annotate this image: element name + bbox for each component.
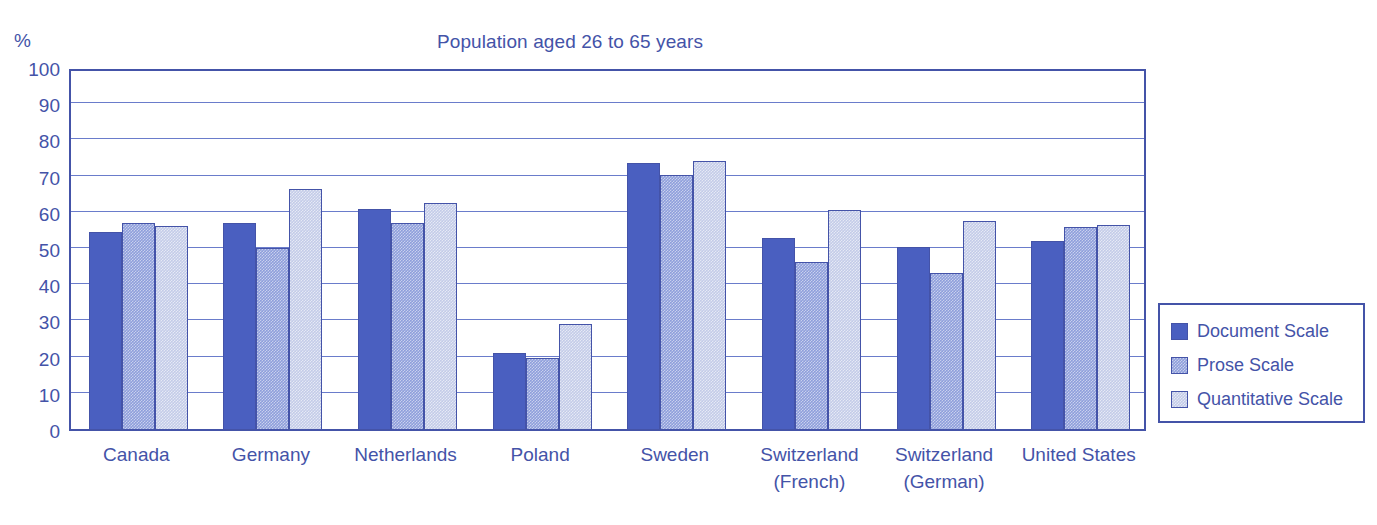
y-axis-tick: 90 [8,96,60,115]
y-axis-tick: 70 [8,169,60,188]
y-axis-tick: 10 [8,386,60,405]
bar [627,163,660,429]
bar [795,262,828,429]
x-axis-label: Germany [204,441,339,468]
bar [1064,227,1097,429]
bar [559,324,592,429]
y-axis-tick: 60 [8,205,60,224]
bar-group [762,71,861,429]
bar-group [1031,71,1130,429]
legend-swatch-icon [1171,323,1188,340]
legend-item[interactable]: Document Scale [1171,314,1363,348]
y-axis-tick: 20 [8,350,60,369]
bar-group [897,71,996,429]
y-axis-tick: 0 [8,422,60,441]
y-axis-tick-labels: 1009080706050403020100 [0,69,60,431]
legend-label: Quantitative Scale [1197,389,1343,410]
legend-label: Document Scale [1197,321,1329,342]
bar [122,223,155,429]
bar [358,209,391,429]
bar [660,175,693,429]
chart-title: Population aged 26 to 65 years [0,31,1140,53]
x-axis-label: Canada [69,441,204,468]
y-axis-tick: 30 [8,313,60,332]
bar [930,273,963,429]
bar [89,232,122,429]
legend-item[interactable]: Quantitative Scale [1171,382,1363,416]
bar [828,210,861,429]
x-axis-label: Switzerland (French) [742,441,877,495]
bar [223,223,256,429]
bar [1097,225,1130,429]
bar-group [223,71,322,429]
legend-swatch-icon [1171,357,1188,374]
bar [424,203,457,429]
plot-inner [71,71,1144,429]
chart-legend: Document ScaleProse ScaleQuantitative Sc… [1158,303,1365,423]
legend-label: Prose Scale [1197,355,1294,376]
bar [493,353,526,429]
x-axis-label: Sweden [608,441,743,468]
bar-group [358,71,457,429]
x-axis-label: Switzerland (German) [877,441,1012,495]
bar [1031,241,1064,429]
x-axis-category-labels: CanadaGermanyNetherlandsPolandSwedenSwit… [69,441,1146,521]
legend-swatch-icon [1171,391,1188,408]
bar [526,358,559,429]
y-axis-tick: 100 [8,60,60,79]
bar [256,248,289,429]
x-axis-label: Poland [473,441,608,468]
bar [963,221,996,429]
bar [155,226,188,429]
legend-item[interactable]: Prose Scale [1171,348,1363,382]
y-axis-tick: 50 [8,241,60,260]
bar [391,223,424,429]
x-axis-label: United States [1011,441,1146,468]
bar [289,189,322,429]
bar [693,161,726,429]
bar-group [627,71,726,429]
x-axis-label: Netherlands [338,441,473,468]
bar-group [493,71,592,429]
bar [762,238,795,429]
plot-area [69,69,1146,431]
bar-chart: % Population aged 26 to 65 years 1009080… [0,0,1377,525]
y-axis-tick: 80 [8,132,60,151]
y-axis-tick: 40 [8,277,60,296]
bar-group [89,71,188,429]
bar [897,247,930,429]
